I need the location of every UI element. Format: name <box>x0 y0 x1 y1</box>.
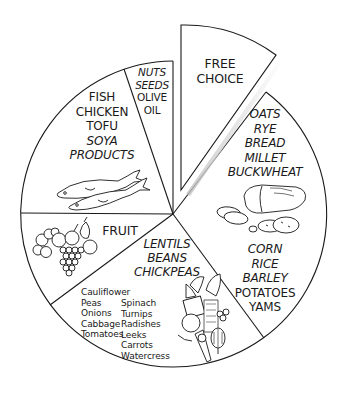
list-item: Cauliflower <box>81 287 131 298</box>
food-pie-diagram: FREE CHOICE NUTS SEEDS OLIVE OIL FISH CH… <box>0 0 341 397</box>
label-line: PRODUCTS <box>62 148 142 163</box>
list-item: Turnips <box>121 309 171 320</box>
segment-fruit-label: FRUIT <box>100 224 140 238</box>
label-line: MILLET <box>224 151 306 166</box>
list-item: Spinach <box>121 298 171 309</box>
label-line: TOFU <box>62 119 142 134</box>
label-line: RYE <box>224 122 306 137</box>
label-line: LENTILS <box>131 237 203 251</box>
label-line: CORN <box>230 242 300 257</box>
label-line: YAMS <box>230 300 300 315</box>
label-line: FRUIT <box>100 224 140 238</box>
label-line: CHICKPEAS <box>131 265 203 279</box>
list-item: Watercress <box>121 351 171 362</box>
label-line: CHOICE <box>192 71 248 86</box>
segment-grains-upper-label: OATS RYE BREAD MILLET BUCKWHEAT <box>224 107 306 180</box>
label-line: OATS <box>224 107 306 122</box>
list-item: Carrots <box>121 340 171 351</box>
fish-icon <box>57 170 150 210</box>
label-line: RICE <box>230 257 300 272</box>
vegetables-icon <box>178 274 229 362</box>
list-item: Leeks <box>121 330 171 341</box>
label-line: NUTS <box>132 66 172 79</box>
grapes-icon <box>60 247 84 276</box>
bread-and-potatoes-icon <box>216 185 305 233</box>
label-line: BEANS <box>131 251 203 265</box>
label-line: BREAD <box>224 136 306 151</box>
label-line: FREE <box>192 56 248 71</box>
label-line: FISH <box>62 90 142 105</box>
protein-fruit-divider <box>21 213 173 214</box>
segment-grains-lower-label: CORN RICE BARLEY POTATOES YAMS <box>230 242 300 315</box>
segment-legumes-label: LENTILS BEANS CHICKPEAS <box>131 237 203 279</box>
label-line: POTATOES <box>230 286 300 301</box>
label-line: BARLEY <box>230 271 300 286</box>
list-item: Radishes <box>121 319 171 330</box>
segment-protein-label: FISH CHICKEN TOFU SOYA PRODUCTS <box>62 90 142 163</box>
label-line: CHICKEN <box>62 105 142 120</box>
label-line: SOYA <box>62 134 142 149</box>
segment-free-choice-label: FREE CHOICE <box>192 56 248 86</box>
fruit-icon <box>33 217 97 276</box>
label-line: BUCKWHEAT <box>224 165 306 180</box>
vegetables-list-col2: Spinach Turnips Radishes Leeks Carrots W… <box>121 298 171 362</box>
